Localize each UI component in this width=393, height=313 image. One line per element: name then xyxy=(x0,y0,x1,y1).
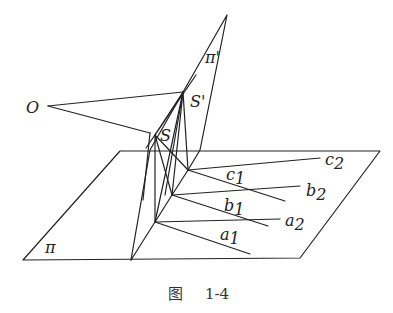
ray-O-to-S-prime xyxy=(48,92,183,106)
line-c2 xyxy=(188,158,320,170)
label-c2: c2 xyxy=(325,150,344,173)
perspective-projection-diagram: O S S' π' π c2 c1 b2 b1 a2 a1 xyxy=(0,0,393,313)
line-S-left xyxy=(143,133,150,200)
label-S-prime: S' xyxy=(190,92,205,111)
label-O: O xyxy=(26,98,39,117)
label-S: S xyxy=(160,126,171,145)
label-b1: b1 xyxy=(224,196,244,219)
figure-caption: 图1-4 xyxy=(168,282,229,303)
ray-O-to-S xyxy=(48,106,150,133)
line-S-prime-to-a xyxy=(155,92,183,222)
caption-prefix: 图 xyxy=(168,285,183,303)
label-c1: c1 xyxy=(226,165,245,188)
trace-chain xyxy=(131,170,188,260)
label-b2: b2 xyxy=(306,181,326,204)
line-a2 xyxy=(155,219,280,222)
line-S-prime-to-c xyxy=(183,92,188,170)
label-a2: a2 xyxy=(285,211,305,234)
label-pi: π xyxy=(44,238,56,257)
label-pi-prime: π' xyxy=(204,48,220,67)
caption-number: 1-4 xyxy=(205,285,229,303)
